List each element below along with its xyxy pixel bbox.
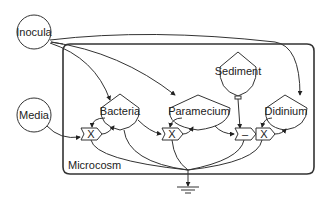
paramecium-label: Paramecium xyxy=(168,105,230,117)
sediment-label: Sediment xyxy=(215,65,261,77)
bacteria-label: Bacteria xyxy=(100,105,141,117)
subtraction-operator: – xyxy=(235,128,256,140)
paramecium-to-minus-edge xyxy=(215,126,234,134)
ground-icon xyxy=(177,187,199,193)
interaction-operator-3: X xyxy=(256,128,275,140)
media-label: Media xyxy=(19,109,50,121)
sediment-stock: Sediment xyxy=(215,52,261,99)
media-source: Media xyxy=(17,98,51,132)
svg-text:–: – xyxy=(242,128,249,140)
svg-text:X: X xyxy=(168,128,176,140)
didinium-label: Didinium xyxy=(265,105,308,117)
interaction-operator-1: X xyxy=(81,128,102,140)
svg-text:X: X xyxy=(260,128,268,140)
bacteria-to-op2-edge xyxy=(138,120,161,134)
stock-flow-diagram: Microcosm Inocula Media Sediment Bacteri… xyxy=(0,0,330,209)
inocula-source: Inocula xyxy=(16,15,52,49)
didinium-stock: Didinium xyxy=(265,95,308,130)
sediment-to-minus-edge xyxy=(238,99,240,128)
bacteria-stock: Bacteria xyxy=(100,94,141,130)
interaction-operator-2: X xyxy=(162,128,183,140)
svg-text:X: X xyxy=(87,128,95,140)
microcosm-label: Microcosm xyxy=(68,159,121,171)
inocula-label: Inocula xyxy=(16,26,52,38)
paramecium-stock: Paramecium xyxy=(168,95,230,130)
